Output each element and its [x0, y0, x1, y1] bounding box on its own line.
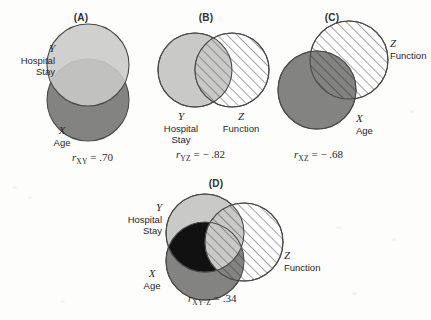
y-name-line2: Stay: [143, 225, 162, 236]
stat-c-subscript: XZ: [298, 154, 308, 163]
z-symbol: Z: [390, 37, 396, 49]
z-symbol: Z: [284, 249, 290, 261]
stat-d: rXY·Z = .34: [188, 292, 236, 307]
panel-d: (D): [110, 176, 325, 320]
x-symbol: X: [59, 124, 66, 136]
scan-speck: [28, 196, 32, 199]
panel-c-venn: [282, 8, 431, 168]
panel-c: (C) Z Function X Age rXZ = − .68: [282, 8, 431, 168]
y-name-line1: Hospital: [21, 55, 55, 66]
stat-b: rYZ = − .82: [176, 148, 225, 163]
stat-d-value: .34: [223, 292, 237, 304]
stat-b-subscript: YZ: [180, 154, 190, 163]
stat-a-subscript: XY: [76, 157, 87, 166]
y-name-line2: Stay: [171, 134, 190, 145]
label-x-a: X Age: [40, 125, 84, 148]
stat-b-value: − .82: [202, 148, 225, 160]
y-symbol: Y: [178, 110, 184, 122]
equals-glyph: =: [90, 151, 96, 163]
x-name: Age: [356, 125, 373, 136]
z-name: Function: [390, 50, 426, 61]
equals-glyph: =: [193, 148, 199, 160]
stat-d-subscript: XY·Z: [192, 298, 211, 307]
z-name: Function: [284, 262, 320, 273]
panel-a-label: (A): [63, 12, 99, 23]
stat-c: rXZ = − .68: [294, 148, 343, 163]
label-z-c: Z Function: [390, 38, 431, 61]
y-name-line2: Stay: [36, 66, 55, 77]
label-y-b: Y Hospital Stay: [152, 111, 210, 146]
panel-a: (A) Y Hospital Stay X Age rXY = .70: [0, 8, 150, 168]
stat-c-value: − .68: [320, 148, 343, 160]
label-z-d: Z Function: [284, 250, 332, 273]
panel-b-label: (B): [188, 12, 224, 23]
label-y-d: Y Hospital Stay: [110, 202, 162, 237]
scan-speck: [392, 238, 396, 241]
stat-a-value: .70: [99, 151, 113, 163]
label-x-c: X Age: [356, 113, 396, 136]
y-name-line1: Hospital: [128, 214, 162, 225]
y-name-line1: Hospital: [164, 123, 198, 134]
scan-speck: [336, 226, 342, 229]
venn-figure: (A) Y Hospital Stay X Age rXY = .70 (B): [0, 0, 431, 320]
z-name: Function: [223, 123, 259, 134]
stat-a: rXY = .70: [72, 151, 113, 166]
equals-glyph: =: [311, 148, 317, 160]
label-z-b: Z Function: [212, 111, 270, 134]
label-x-d: X Age: [132, 268, 172, 291]
z-symbol: Z: [238, 110, 244, 122]
equals-glyph: =: [214, 292, 220, 304]
panel-c-label: (C): [314, 12, 350, 23]
panel-b: (B) Y Hospital Stay Z Function rYZ =: [140, 8, 290, 168]
x-name: Age: [54, 137, 71, 148]
label-y-a: Y Hospital Stay: [0, 43, 55, 78]
scan-speck: [352, 292, 357, 295]
y-symbol: Y: [49, 42, 55, 54]
circle-y-hospital-stay: [47, 24, 129, 106]
y-symbol: Y: [156, 201, 162, 213]
x-symbol: X: [149, 267, 156, 279]
scan-speck: [12, 186, 17, 189]
x-symbol: X: [356, 112, 363, 124]
panel-d-label: (D): [198, 178, 234, 189]
x-name: Age: [144, 280, 161, 291]
scan-speck: [60, 300, 65, 303]
